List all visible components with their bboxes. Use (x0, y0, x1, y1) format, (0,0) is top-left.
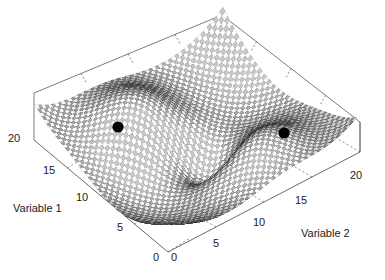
tick-label-variable2-5: 5 (213, 238, 219, 249)
tick-label-variable1-15: 15 (43, 165, 55, 176)
surface-plot-figure: 20 15 10 5 0 0 5 10 15 20 Variable 1 Var… (0, 0, 385, 280)
optimum-right-marker (278, 127, 289, 138)
tick-label-variable2-0: 0 (171, 252, 177, 263)
axis-title-variable1: Variable 1 (13, 203, 62, 214)
optimum-left-marker (112, 121, 123, 132)
axis-title-variable2: Variable 2 (301, 228, 350, 239)
tick-label-variable1-20: 20 (8, 133, 20, 144)
tick-label-variable1-10: 10 (76, 192, 88, 203)
tick-label-variable1-5: 5 (117, 222, 123, 233)
tick-label-variable2-15: 15 (295, 195, 307, 206)
tick-label-variable2-20: 20 (350, 170, 362, 181)
tick-label-variable1-0: 0 (153, 252, 159, 263)
tick-label-variable2-10: 10 (253, 217, 265, 228)
